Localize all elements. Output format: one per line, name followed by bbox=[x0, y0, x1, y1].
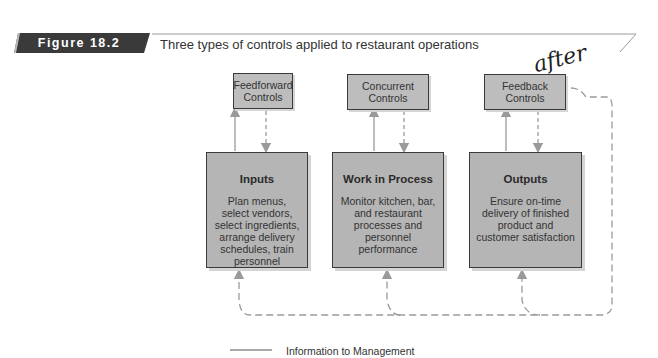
control-label: Feedforward bbox=[234, 79, 293, 92]
inputs-box: Inputs Plan menus, select vendors, selec… bbox=[206, 152, 308, 268]
outputs-box: Outputs Ensure on-time delivery of finis… bbox=[469, 152, 582, 268]
stage-description: Ensure on-time delivery of finished prod… bbox=[470, 195, 581, 243]
work-in-process-box: Work in Process Monitor kitchen, bar, an… bbox=[332, 152, 444, 268]
stage-heading: Outputs bbox=[470, 173, 581, 185]
control-label-line2: Controls bbox=[234, 91, 293, 104]
concurrent-controls-box: ConcurrentControls bbox=[347, 74, 429, 110]
stage-description: Monitor kitchen, bar, and restaurant pro… bbox=[333, 195, 443, 255]
feedback-controls-box: FeedbackControls bbox=[484, 74, 566, 110]
control-label-line2: Controls bbox=[502, 92, 548, 105]
control-label-line2: Controls bbox=[362, 92, 414, 105]
control-label: Feedback bbox=[502, 80, 548, 93]
stage-description: Plan menus, select vendors, select ingre… bbox=[207, 195, 307, 267]
feedforward-controls-box: FeedforwardControls bbox=[233, 73, 293, 109]
stage-heading: Inputs bbox=[207, 173, 307, 185]
legend-label: Information to Management bbox=[286, 345, 414, 357]
stage-heading: Work in Process bbox=[333, 173, 443, 185]
control-label: Concurrent bbox=[362, 80, 414, 93]
